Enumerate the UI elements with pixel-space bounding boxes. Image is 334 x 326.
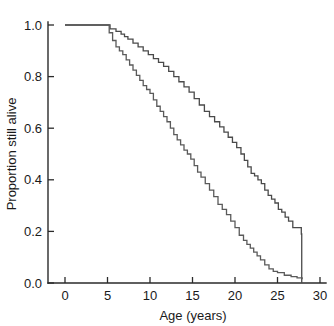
x-tick-label: 30 (313, 288, 327, 303)
survival-curve-figure: 0.00.20.40.60.81.0 051015202530 Proporti… (0, 0, 334, 326)
x-tick-label: 15 (185, 288, 199, 303)
x-tick-label: 5 (104, 288, 111, 303)
axis-tick-marks (48, 25, 320, 283)
chart-canvas: 0.00.20.40.60.81.0 051015202530 Proporti… (0, 0, 334, 326)
y-tick-label: 0.4 (24, 172, 42, 187)
y-axis-tick-labels: 0.00.20.40.60.81.0 (24, 18, 42, 291)
y-tick-label: 0.0 (24, 276, 42, 291)
y-tick-label: 0.6 (24, 121, 42, 136)
x-tick-label: 20 (228, 288, 242, 303)
series-upper-curve (65, 25, 302, 283)
y-axis-title: Proportion still alive (4, 98, 19, 211)
y-tick-label: 0.2 (24, 224, 42, 239)
x-tick-label: 10 (143, 288, 157, 303)
x-tick-label: 0 (61, 288, 68, 303)
x-tick-label: 25 (270, 288, 284, 303)
series-lower-curve (65, 25, 302, 279)
data-series-group (65, 25, 302, 283)
x-axis-title: Age (years) (159, 308, 226, 323)
y-tick-label: 1.0 (24, 18, 42, 33)
y-tick-label: 0.8 (24, 69, 42, 84)
x-axis-tick-labels: 051015202530 (61, 288, 327, 303)
